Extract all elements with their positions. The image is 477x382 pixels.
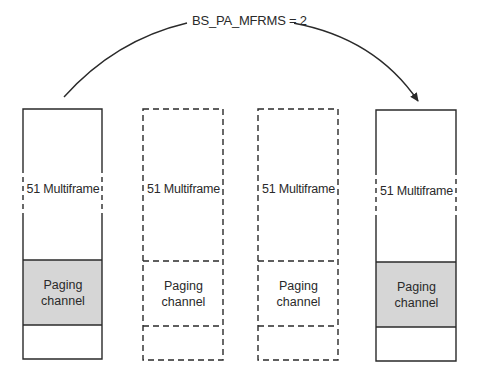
paging-label-line2: channel [258,294,339,310]
paging-label-line1: Paging [23,277,103,293]
paging-channel-label-2: Paging channel [143,278,224,310]
repeat-arrow [64,23,418,101]
multiframe-label-3: 51 Multiframe [258,182,339,196]
arrow-arc-left [64,23,187,97]
multiframe-box-4 [376,110,456,361]
paging-label-line1: Paging [143,278,224,294]
multiframe-label-1: 51 Multiframe [23,182,103,196]
paging-channel-label-4: Paging channel [376,279,457,311]
multiframe-label-2: 51 Multiframe [143,182,224,196]
paging-channel-label-1: Paging channel [23,277,103,309]
multiframe-label-4: 51 Multiframe [376,184,457,198]
paging-label-line1: Paging [376,279,457,295]
multiframe-box-1 [23,109,102,359]
paging-multiframe-diagram: BS_PA_MFRMS = 2 51 Multiframe 51 Multifr… [0,0,477,382]
paging-label-line1: Paging [258,278,339,294]
paging-label-line2: channel [23,293,103,309]
multiframe-box-3 [258,109,338,360]
paging-label-line2: channel [143,294,224,310]
arrow-label: BS_PA_MFRMS = 2 [190,13,294,28]
multiframe-box-2 [143,109,223,360]
paging-label-line2: channel [376,295,457,311]
arrow-arc-right [293,23,418,101]
paging-channel-label-3: Paging channel [258,278,339,310]
